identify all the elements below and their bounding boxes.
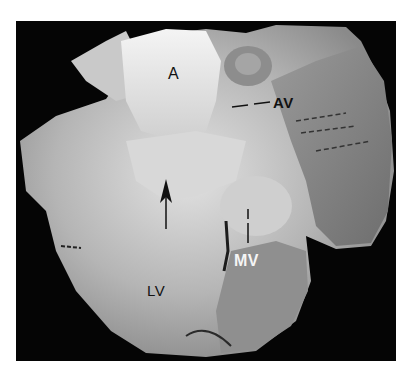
label-mitral-valve: MV bbox=[234, 253, 259, 269]
heart-specimen-photo: A AV MV LV bbox=[16, 21, 396, 361]
label-left-ventricle: LV bbox=[147, 283, 165, 298]
label-aorta: A bbox=[168, 66, 179, 82]
annotations-layer bbox=[16, 21, 396, 361]
label-aortic-valve: AV bbox=[273, 95, 294, 110]
av-leader-line bbox=[232, 102, 270, 107]
upward-arrow-icon bbox=[160, 179, 172, 229]
